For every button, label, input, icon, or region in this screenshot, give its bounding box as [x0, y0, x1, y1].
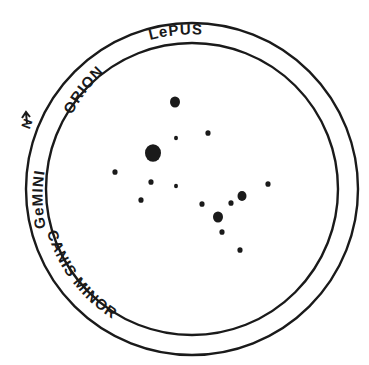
star [228, 200, 233, 206]
star [219, 229, 224, 235]
star [145, 144, 161, 162]
star [138, 197, 143, 203]
label-lepus: LePUS [147, 20, 204, 43]
star [199, 201, 204, 207]
star [112, 169, 117, 175]
outer-ring [26, 23, 358, 355]
star [174, 184, 178, 188]
star [205, 130, 210, 136]
star-chart: LePUS ORION GeMINI CANIS MINOR N [0, 0, 369, 365]
star [213, 212, 223, 223]
star [238, 191, 247, 201]
star [237, 247, 242, 253]
star [148, 179, 153, 185]
label-orion: ORION [60, 62, 107, 116]
label-canis-minor: CANIS MINOR [44, 228, 121, 322]
star [170, 97, 180, 108]
stars [112, 97, 270, 253]
star [265, 181, 270, 187]
star [174, 136, 178, 140]
